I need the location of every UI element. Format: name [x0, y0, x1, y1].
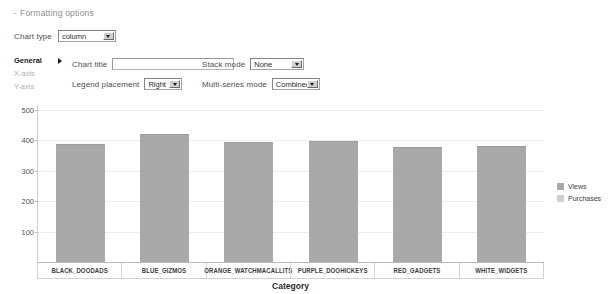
legend-label: Views — [568, 183, 587, 190]
chart-container: 100200300400500 BLACK_DOODADSBLUE_GIZMOS… — [0, 100, 615, 294]
multi-series-mode-label: Multi-series mode — [202, 80, 267, 89]
chart-legend: ViewsPurchases — [557, 180, 615, 204]
legend-label: Purchases — [568, 195, 601, 202]
y-axis-tick-label: 400 — [21, 136, 34, 145]
stack-mode-label: Stack mode — [202, 60, 245, 69]
tab-y-axis[interactable]: Y-axis — [14, 80, 66, 93]
category-axis-label: BLACK_DOODADS — [52, 268, 108, 274]
category-axis-label: WHITE_WIDGETS — [475, 268, 527, 274]
category-axis-cell: BLACK_DOODADS — [37, 263, 121, 279]
gridline — [38, 201, 544, 202]
legend-placement-value: Right — [148, 80, 166, 89]
collapse-toggle-icon: - — [13, 8, 20, 18]
chart-type-select[interactable]: column — [58, 30, 116, 42]
bar[interactable] — [309, 141, 358, 262]
multi-series-mode-select[interactable]: Combined — [272, 78, 320, 90]
bar[interactable] — [140, 134, 189, 262]
gridline — [38, 171, 544, 172]
y-axis-tick-mark — [35, 201, 38, 202]
chart-type-row: Chart type column — [14, 30, 116, 42]
chart-title-label: Chart title — [72, 60, 107, 69]
category-axis-cell: ORANGE_WATCHMACALLITS — [206, 263, 290, 279]
y-axis-tick-label: 100 — [21, 227, 34, 236]
chevron-down-icon[interactable] — [291, 60, 302, 68]
gridline — [38, 232, 544, 233]
category-axis-label: RED_GADGETS — [394, 268, 441, 274]
category-axis: BLACK_DOODADSBLUE_GIZMOSORANGE_WATCHMACA… — [37, 263, 544, 279]
category-axis-cell: BLUE_GIZMOS — [121, 263, 205, 279]
tab-general-label: General — [14, 56, 42, 65]
stack-mode-row: Stack mode None — [202, 54, 320, 74]
stack-mode-select[interactable]: None — [250, 58, 304, 70]
bar[interactable] — [477, 146, 526, 262]
y-axis-tick-mark — [35, 110, 38, 111]
legend-placement-label: Legend placement — [72, 80, 139, 89]
category-axis-cell: PURPLE_DOOHICKEYS — [290, 263, 374, 279]
stack-mode-value: None — [254, 60, 272, 69]
category-axis-label: PURPLE_DOOHICKEYS — [298, 268, 368, 274]
bar[interactable] — [393, 147, 442, 262]
y-axis-tick-mark — [35, 171, 38, 172]
chart-type-label: Chart type — [14, 32, 52, 41]
bar[interactable] — [224, 142, 273, 262]
tab-x-axis[interactable]: X-axis — [14, 67, 66, 80]
bar[interactable] — [56, 144, 105, 262]
multi-series-mode-value: Combined — [276, 80, 310, 89]
category-axis-label: BLUE_GIZMOS — [142, 268, 186, 274]
chevron-down-icon[interactable] — [307, 80, 318, 88]
gridline — [38, 110, 544, 111]
formatting-options-toggle[interactable]: -Formatting options — [13, 8, 94, 18]
category-axis-cell: WHITE_WIDGETS — [459, 263, 543, 279]
y-axis-tick-mark — [35, 140, 38, 141]
y-axis-tick-label: 200 — [21, 197, 34, 206]
y-axis-tick-label: 500 — [21, 105, 34, 114]
multi-series-mode-row: Multi-series mode Combined — [202, 74, 320, 94]
y-axis-tick-label: 300 — [21, 166, 34, 175]
tab-x-axis-label: X-axis — [14, 69, 35, 78]
category-axis-label: ORANGE_WATCHMACALLITS — [204, 268, 292, 274]
category-axis-cell: RED_GADGETS — [374, 263, 458, 279]
options-column-right: Stack mode None Multi-series mode Combin… — [202, 54, 320, 94]
options-tab-list: General X-axis Y-axis — [14, 54, 66, 93]
chevron-down-icon[interactable] — [103, 32, 114, 40]
formatting-options-panel: -Formatting options Chart type column Ge… — [0, 0, 615, 100]
caret-right-icon — [58, 58, 62, 64]
formatting-options-title: Formatting options — [20, 8, 94, 18]
chart-type-value: column — [62, 32, 86, 41]
legend-swatch — [557, 195, 564, 202]
tab-general[interactable]: General — [14, 54, 66, 67]
legend-item[interactable]: Views — [557, 180, 615, 192]
legend-swatch — [557, 183, 564, 190]
legend-item[interactable]: Purchases — [557, 192, 615, 204]
chevron-down-icon[interactable] — [169, 80, 180, 88]
gridline — [38, 140, 544, 141]
legend-placement-select[interactable]: Right — [144, 78, 182, 90]
plot-area: 100200300400500 — [37, 105, 544, 263]
y-axis-tick-mark — [35, 232, 38, 233]
tab-y-axis-label: Y-axis — [14, 82, 34, 91]
x-axis-title: Category — [37, 281, 544, 291]
